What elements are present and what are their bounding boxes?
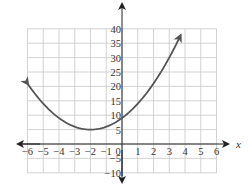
x-tick-label: −3 xyxy=(69,146,80,157)
x-axis-label: x xyxy=(235,138,241,150)
y-tick-label: 30 xyxy=(111,53,122,64)
y-tick-label: −10 xyxy=(105,168,121,179)
x-tick-label: −6 xyxy=(22,146,33,157)
x-tick-label: 2 xyxy=(151,146,156,157)
x-tick-label: −5 xyxy=(38,146,49,157)
y-tick-label: 20 xyxy=(111,81,122,92)
x-tick-label: 3 xyxy=(167,146,172,157)
x-tick-label: 4 xyxy=(182,146,188,157)
x-tick-label: −4 xyxy=(53,146,65,157)
y-tick-label: 35 xyxy=(111,38,122,49)
y-tick-label: 15 xyxy=(111,96,122,107)
x-tick-label: −2 xyxy=(85,146,96,157)
y-tick-label: 25 xyxy=(111,67,122,78)
x-tick-label: 6 xyxy=(214,146,219,157)
x-tick-label: 1 xyxy=(135,146,140,157)
y-tick-label: −5 xyxy=(110,153,121,164)
y-tick-label: 40 xyxy=(111,24,122,35)
axes xyxy=(18,4,228,182)
y-tick-label: 5 xyxy=(116,125,121,136)
parabola-chart: −6−5−4−3−2−10123456 −10−5510152025303540… xyxy=(0,0,252,191)
x-tick-label: 5 xyxy=(198,146,203,157)
